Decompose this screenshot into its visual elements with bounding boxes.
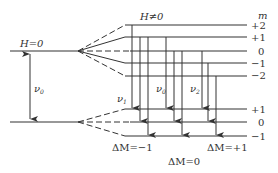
upper-split-fan bbox=[78, 25, 130, 76]
lower-split-fan bbox=[78, 109, 130, 136]
lower-level-label: −1 bbox=[251, 131, 266, 142]
upper-level-label: 0 bbox=[258, 46, 264, 57]
dm-zero-label: ΔM=0 bbox=[168, 156, 200, 167]
nu1-label: ν1 bbox=[117, 93, 127, 105]
lower-level-label: 0 bbox=[258, 117, 264, 128]
upper-level-label: +1 bbox=[251, 32, 266, 43]
upper-split-levels bbox=[125, 25, 247, 76]
upper-level-label: −1 bbox=[251, 58, 266, 69]
nu0-left-label: ν0 bbox=[34, 83, 44, 95]
lower-split-levels bbox=[125, 109, 247, 136]
upper-level-label: +2 bbox=[251, 20, 266, 31]
upper-level-label: −2 bbox=[251, 70, 266, 81]
transitions-dm-0 bbox=[166, 37, 182, 135]
nu2-label: ν2 bbox=[190, 83, 200, 95]
h-zero-label: H=0 bbox=[19, 38, 44, 49]
dm-plus1-label: ΔM=+1 bbox=[207, 142, 248, 153]
h-nonzero-label: H≠0 bbox=[139, 11, 164, 22]
nu0-mid-label: ν0 bbox=[156, 83, 166, 95]
zeeman-diagram: H=0 H≠0 m +2 +1 0 −1 −2 +1 0 −1 ν0 ν1 ν0… bbox=[0, 0, 278, 173]
dm-minus1-label: ΔM=−1 bbox=[112, 142, 153, 153]
transitions-dm-minus1 bbox=[132, 25, 148, 135]
lower-level-label: +1 bbox=[251, 104, 266, 115]
